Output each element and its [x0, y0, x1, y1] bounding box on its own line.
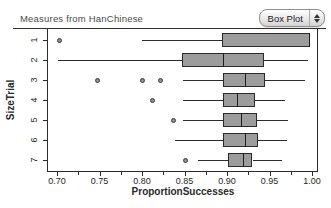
x-minor-tick	[163, 172, 164, 175]
whisker-low	[142, 40, 222, 41]
x-tick-label: 0.75	[91, 176, 109, 186]
y-axis-label: SizeTrial	[5, 80, 16, 121]
outlier-point[interactable]	[57, 38, 62, 43]
graph-window: Measures from HanChinese Box Plot Propor…	[0, 0, 331, 208]
y-category-label: 4	[29, 97, 39, 102]
outlier-point[interactable]	[158, 78, 163, 83]
plot-type-dropdown-label: Box Plot	[268, 13, 309, 24]
whisker-high	[255, 100, 285, 101]
whisker-high	[253, 160, 283, 161]
whisker-low	[58, 60, 182, 61]
x-tick-label: 0.95	[261, 176, 279, 186]
median-line	[309, 33, 310, 47]
arrow-up-icon	[314, 14, 320, 18]
y-category-label: 3	[29, 77, 39, 82]
outlier-point[interactable]	[150, 98, 155, 103]
whisker-high	[265, 80, 305, 81]
y-tick	[43, 160, 47, 161]
y-tick	[43, 60, 47, 61]
outlier-point[interactable]	[95, 78, 100, 83]
median-line	[245, 133, 246, 147]
outlier-point[interactable]	[140, 78, 145, 83]
x-minor-tick	[206, 172, 207, 175]
x-tick-label: 0.70	[48, 176, 66, 186]
x-tick-label: 0.85	[176, 176, 194, 186]
x-tick-label: 1.00	[303, 176, 321, 186]
whisker-high	[258, 140, 287, 141]
median-line	[245, 73, 246, 87]
whisker-low	[175, 140, 223, 141]
plot-type-dropdown[interactable]: Box Plot	[259, 9, 325, 27]
box[interactable]	[223, 133, 259, 147]
median-line	[243, 153, 244, 167]
up-down-stepper-icon[interactable]	[309, 10, 324, 26]
outlier-point[interactable]	[183, 158, 188, 163]
box[interactable]	[223, 93, 255, 107]
x-minor-tick	[78, 172, 79, 175]
y-category-label: 1	[29, 37, 39, 42]
outlier-point[interactable]	[171, 118, 176, 123]
median-line	[241, 113, 242, 127]
y-category-label: 6	[29, 137, 39, 142]
whisker-low	[183, 80, 223, 81]
median-line	[237, 93, 238, 107]
y-tick	[43, 80, 47, 81]
box[interactable]	[222, 33, 310, 47]
whisker-low	[183, 120, 223, 121]
whisker-high	[264, 60, 308, 61]
x-minor-tick	[291, 172, 292, 175]
box[interactable]	[223, 113, 257, 127]
whisker-low	[183, 100, 223, 101]
y-tick	[43, 140, 47, 141]
y-tick	[43, 100, 47, 101]
x-tick-label: 0.90	[218, 176, 236, 186]
whisker-low	[198, 160, 228, 161]
y-category-label: 7	[29, 157, 39, 162]
x-tick-label: 0.80	[133, 176, 151, 186]
y-tick	[43, 120, 47, 121]
graph-title: Measures from HanChinese	[20, 13, 143, 24]
whisker-high	[257, 120, 288, 121]
y-tick	[43, 40, 47, 41]
x-minor-tick	[248, 172, 249, 175]
y-category-label: 2	[29, 57, 39, 62]
arrow-down-icon	[314, 19, 320, 23]
median-line	[223, 53, 224, 67]
box[interactable]	[228, 153, 253, 167]
x-axis-label: ProportionSuccesses	[132, 186, 235, 197]
x-minor-tick	[121, 172, 122, 175]
y-category-label: 5	[29, 117, 39, 122]
